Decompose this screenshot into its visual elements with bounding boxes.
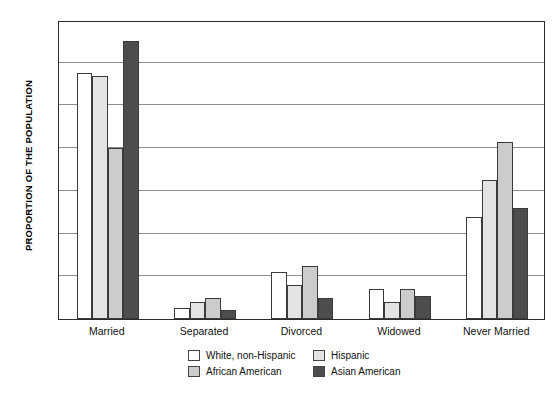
plot-area: [58, 21, 545, 320]
legend-swatch: [188, 350, 200, 361]
bar: [123, 41, 139, 319]
legend-label: Hispanic: [331, 350, 369, 361]
bar: [92, 76, 108, 319]
x-tick-label: Never Married: [448, 325, 545, 337]
bar: [400, 289, 416, 319]
legend-row: White, non-HispanicHispanic: [188, 347, 488, 363]
bar-group: [449, 22, 546, 319]
legend-swatch: [313, 366, 325, 377]
legend-item: Asian American: [313, 366, 453, 377]
x-tick-label: Widowed: [350, 325, 447, 337]
bar: [77, 73, 93, 319]
bar: [513, 208, 529, 319]
legend-label: Asian American: [331, 366, 400, 377]
bar: [205, 298, 221, 319]
bar: [497, 142, 513, 319]
legend-item: African American: [188, 366, 313, 377]
chart-legend: White, non-HispanicHispanicAfrican Ameri…: [188, 347, 488, 379]
bar-group: [59, 22, 156, 319]
bar: [287, 285, 303, 319]
legend-item: Hispanic: [313, 350, 453, 361]
bar: [108, 148, 124, 319]
legend-label: African American: [206, 366, 282, 377]
bar-series-layer: [59, 22, 544, 319]
x-tick-label: Separated: [155, 325, 252, 337]
x-tick-label: Divorced: [253, 325, 350, 337]
bar: [302, 266, 318, 319]
bar: [415, 296, 431, 319]
legend-swatch: [313, 350, 325, 361]
bar: [466, 217, 482, 320]
bar-group: [254, 22, 351, 319]
bar: [482, 180, 498, 319]
bar: [369, 289, 385, 319]
legend-label: White, non-Hispanic: [206, 350, 295, 361]
legend-row: African AmericanAsian American: [188, 363, 488, 379]
bar: [271, 272, 287, 319]
x-tick-label: Married: [58, 325, 155, 337]
bar: [174, 308, 190, 319]
bar-group: [156, 22, 253, 319]
bar: [221, 310, 237, 319]
bar: [384, 302, 400, 319]
bar-group: [351, 22, 448, 319]
legend-item: White, non-Hispanic: [188, 350, 313, 361]
legend-swatch: [188, 366, 200, 377]
bar: [190, 302, 206, 319]
bar: [318, 298, 334, 319]
bar-chart-figure: PROPORTION OF THE POPULATION 01020304050…: [0, 0, 558, 393]
